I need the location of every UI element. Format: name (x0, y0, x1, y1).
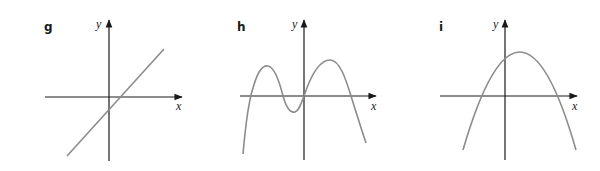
y-axis-label: y (95, 17, 102, 31)
panel-i: i y x (439, 17, 578, 160)
linear-curve (67, 49, 164, 156)
x-axis-label: x (571, 99, 578, 113)
x-axis-label: x (370, 99, 377, 113)
y-axis-label: y (291, 17, 298, 31)
panel-label-h: h (237, 20, 246, 34)
x-axis-label: x (175, 99, 182, 113)
panel-g: g y x (44, 17, 182, 161)
panel-label-i: i (439, 20, 443, 34)
parabola-curve (463, 52, 576, 150)
graphs-figure: g y x h y x i y x (0, 0, 600, 171)
y-axis-label: y (492, 17, 499, 31)
panel-label-g: g (44, 20, 53, 34)
panel-h: h y x (237, 17, 377, 160)
